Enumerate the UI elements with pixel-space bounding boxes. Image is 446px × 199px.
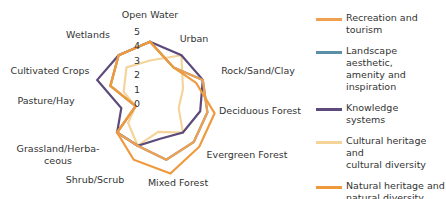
legend-item-knowledge: Knowledgesystems <box>316 102 446 126</box>
radial-tick-label: 1 <box>134 84 140 95</box>
axis-label: Evergreen Forest <box>207 149 288 160</box>
legend-label: Cultural heritage andcultural diversity <box>346 135 446 171</box>
axis-label: Shrub/Scrub <box>66 174 124 185</box>
legend-item-landscape: Landscape aesthetic,amenity and inspirat… <box>316 45 446 93</box>
legend-label: Natural heritage andnatural diversity <box>346 180 445 199</box>
radial-tick-label: 2 <box>134 69 140 80</box>
legend-label: Knowledgesystems <box>346 102 398 126</box>
legend-label: Recreation andtourism <box>346 12 418 36</box>
legend-item-cultural: Cultural heritage andcultural diversity <box>316 135 446 171</box>
radial-tick-label: 4 <box>134 40 140 51</box>
radar-chart: 012345Open WaterUrbanRock/Sand/ClayDecid… <box>0 0 310 199</box>
legend: Recreation andtourism Landscape aestheti… <box>316 12 446 199</box>
axis-label: Open Water <box>122 9 179 20</box>
axis-label: Cultivated Crops <box>11 65 90 76</box>
legend-line-icon <box>316 18 342 21</box>
axis-label: ceous <box>44 155 72 166</box>
legend-item-natural: Natural heritage andnatural diversity <box>316 180 446 199</box>
legend-line-icon <box>316 141 342 144</box>
axis-label: Deciduous Forest <box>219 105 301 116</box>
legend-line-icon <box>316 51 342 54</box>
axis-label: Mixed Forest <box>148 177 208 188</box>
legend-line-icon <box>316 108 342 111</box>
axis-label: Wetlands <box>66 29 110 40</box>
legend-item-recreation: Recreation andtourism <box>316 12 446 36</box>
radial-tick-label: 0 <box>134 98 140 109</box>
series-polygon <box>110 42 214 174</box>
axis-label: Urban <box>180 33 209 44</box>
legend-label: Landscape aesthetic,amenity and inspirat… <box>346 45 446 93</box>
axis-label: Rock/Sand/Clay <box>221 65 295 76</box>
radial-tick-label: 5 <box>134 26 140 37</box>
legend-line-icon <box>316 186 342 189</box>
axis-label: Pasture/Hay <box>17 95 75 106</box>
axis-label: Grassland/Herba- <box>17 143 100 154</box>
series-polygon <box>97 42 203 146</box>
radial-tick-label: 3 <box>134 55 140 66</box>
